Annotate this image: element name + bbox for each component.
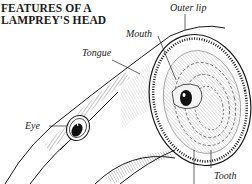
label-mouth: Mouth [126, 28, 152, 39]
label-eye: Eye [25, 120, 40, 131]
eye [62, 111, 94, 145]
label-tongue: Tongue [82, 47, 111, 58]
body-shading [45, 62, 172, 184]
label-tooth: Tooth [214, 170, 236, 181]
mouth-opening [180, 90, 192, 106]
label-outer-lip: Outer lip [170, 2, 206, 13]
tongue-leader [112, 60, 140, 74]
